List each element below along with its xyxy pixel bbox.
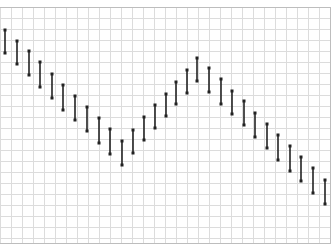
high-marker <box>254 112 257 115</box>
range-bar <box>231 90 234 116</box>
range-bar <box>324 179 327 206</box>
low-marker <box>196 80 199 83</box>
high-marker <box>186 69 189 72</box>
high-marker <box>98 117 101 120</box>
range-bar <box>300 156 303 183</box>
range-bar <box>208 67 211 94</box>
range-bar <box>121 140 124 167</box>
low-marker <box>266 147 269 150</box>
grid-lines <box>0 7 331 243</box>
low-marker <box>121 164 124 167</box>
high-marker <box>266 123 269 126</box>
range-bar <box>165 93 168 118</box>
low-marker <box>16 63 19 66</box>
high-marker <box>74 95 77 98</box>
low-marker <box>51 97 54 100</box>
low-marker <box>220 103 223 106</box>
high-marker <box>289 145 292 148</box>
low-marker <box>98 142 101 145</box>
low-marker <box>74 119 77 122</box>
low-marker <box>277 159 280 162</box>
low-marker <box>175 103 178 106</box>
range-bar <box>312 167 315 195</box>
high-marker <box>132 129 135 132</box>
low-marker <box>312 192 315 195</box>
high-marker <box>109 128 112 131</box>
high-marker <box>86 106 89 109</box>
high-marker <box>231 90 234 93</box>
range-bar <box>277 134 280 162</box>
low-marker <box>165 115 168 118</box>
high-marker <box>154 104 157 107</box>
high-marker <box>277 134 280 137</box>
low-marker <box>243 124 246 127</box>
high-marker <box>62 84 65 87</box>
low-marker <box>62 109 65 112</box>
range-bar <box>16 40 19 66</box>
low-marker <box>143 139 146 142</box>
high-marker <box>175 81 178 84</box>
low-marker <box>39 86 42 89</box>
high-marker <box>165 93 168 96</box>
high-marker <box>121 140 124 143</box>
low-marker <box>208 91 211 94</box>
range-bar <box>4 29 7 55</box>
low-marker <box>289 170 292 173</box>
high-marker <box>243 100 246 103</box>
low-marker <box>324 203 327 206</box>
range-bar <box>98 117 101 145</box>
high-marker <box>300 156 303 159</box>
range-bar <box>109 128 112 156</box>
range-bar <box>62 84 65 112</box>
low-marker <box>28 74 31 77</box>
high-marker <box>51 73 54 76</box>
range-bar <box>266 123 269 150</box>
low-marker <box>300 180 303 183</box>
high-marker <box>28 50 31 53</box>
high-marker <box>208 67 211 70</box>
range-bar-chart <box>0 0 334 246</box>
low-marker <box>132 152 135 155</box>
high-marker <box>16 40 19 43</box>
high-marker <box>324 179 327 182</box>
high-marker <box>143 116 146 119</box>
range-bar <box>289 145 292 173</box>
range-bar <box>220 78 223 106</box>
high-marker <box>220 78 223 81</box>
low-marker <box>4 52 7 55</box>
low-marker <box>154 127 157 130</box>
low-marker <box>109 153 112 156</box>
range-bar <box>186 69 189 95</box>
low-marker <box>254 136 257 139</box>
low-marker <box>186 92 189 95</box>
high-marker <box>312 167 315 170</box>
high-marker <box>4 29 7 32</box>
low-marker <box>86 130 89 133</box>
high-marker <box>196 57 199 60</box>
range-bar <box>154 104 157 130</box>
high-marker <box>39 61 42 64</box>
low-marker <box>231 113 234 116</box>
